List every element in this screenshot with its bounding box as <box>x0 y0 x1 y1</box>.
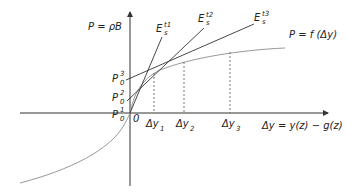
tangent-2-label: Et2s <box>198 11 214 27</box>
svg-text:E: E <box>254 12 261 23</box>
svg-text:0: 0 <box>120 98 125 106</box>
svg-text:E: E <box>198 13 205 24</box>
tangent-1 <box>130 37 162 113</box>
dy2-label: Δy2 <box>175 118 195 133</box>
diagram: P = ρB P = f (Δy) Δy = y(z) − g(z) 0 P10… <box>0 0 347 196</box>
svg-text:P: P <box>112 109 119 120</box>
svg-text:0: 0 <box>120 115 125 123</box>
svg-text:1: 1 <box>160 125 164 133</box>
svg-text:t1: t1 <box>164 21 171 29</box>
svg-text:1: 1 <box>120 106 124 114</box>
tangent-3-label: Et3s <box>254 10 269 26</box>
tangent-2 <box>127 28 204 101</box>
svg-text:P: P <box>112 73 119 84</box>
y-axis-label: P = ρB <box>88 21 122 32</box>
svg-text:t3: t3 <box>262 10 269 18</box>
svg-text:0: 0 <box>120 79 125 87</box>
svg-text:2: 2 <box>120 89 125 97</box>
svg-text:P: P <box>112 92 119 103</box>
svg-text:3: 3 <box>120 70 124 78</box>
svg-text:Δy: Δy <box>145 118 160 129</box>
x-axis-label: Δy = y(z) − g(z) <box>261 120 343 131</box>
svg-text:3: 3 <box>236 125 240 133</box>
p0-2-label: P20 <box>112 89 125 106</box>
dy1-label: Δy1 <box>145 118 164 133</box>
dy3-label: Δy3 <box>221 118 240 133</box>
tangent-1-label: Et1s <box>156 21 171 37</box>
svg-text:s: s <box>262 18 266 26</box>
origin-label: 0 <box>133 113 139 124</box>
svg-text:Δy: Δy <box>175 118 190 129</box>
p0-1-label: P10 <box>112 106 125 123</box>
svg-text:E: E <box>156 23 163 34</box>
curve-label: P = f (Δy) <box>289 29 337 40</box>
svg-text:s: s <box>164 29 168 37</box>
svg-text:t2: t2 <box>206 11 214 19</box>
p0-3-label: P30 <box>112 70 125 87</box>
svg-text:s: s <box>206 19 210 27</box>
svg-text:Δy: Δy <box>221 118 236 129</box>
svg-text:2: 2 <box>190 125 195 133</box>
